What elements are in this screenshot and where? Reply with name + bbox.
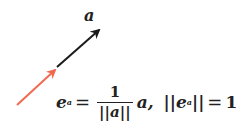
fraction: 1 ||a|| xyxy=(97,85,133,120)
vector-label: a xyxy=(84,6,94,25)
equals-sign: = xyxy=(75,92,90,113)
formula-lhs: e xyxy=(56,92,67,112)
norm-close: || xyxy=(192,92,204,112)
formula-lhs-subscript: a xyxy=(67,97,72,107)
fraction-denominator: ||a|| xyxy=(97,102,133,120)
unit-vector-arrow xyxy=(17,70,55,105)
formula-rhs: 1 xyxy=(225,92,237,112)
vector-a-arrow xyxy=(57,30,99,67)
unit-vector-formula: ea = 1 ||a|| a, ||ea|| = 1 xyxy=(56,82,237,122)
norm-open: ||e xyxy=(164,92,187,112)
formula-vector: a, xyxy=(137,92,154,112)
fraction-numerator: 1 xyxy=(108,85,122,102)
equals-sign-2: = xyxy=(207,92,222,113)
